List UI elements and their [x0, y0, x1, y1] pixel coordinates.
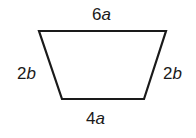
- left-side-label: 2b: [17, 65, 36, 82]
- right-side-label: 2b: [163, 65, 182, 82]
- top-side-label: 6a: [92, 6, 111, 23]
- trapezoid-outline: [39, 31, 166, 99]
- bottom-side-label: 4a: [86, 110, 105, 127]
